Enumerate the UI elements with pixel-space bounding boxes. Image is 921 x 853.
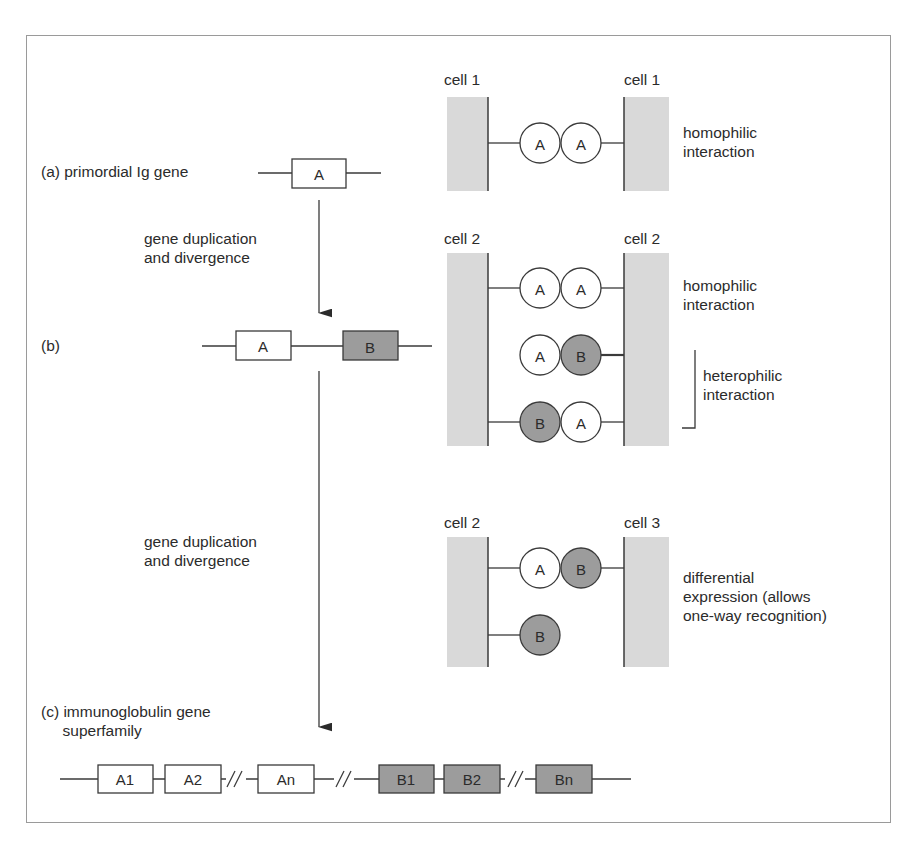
label-b: (b) bbox=[41, 336, 60, 355]
exon-b-label: B bbox=[365, 339, 375, 356]
domain-label: A bbox=[535, 136, 545, 153]
domain-label: B bbox=[535, 415, 545, 432]
domain-label: A bbox=[535, 348, 545, 365]
exon-bn-label: Bn bbox=[555, 771, 573, 788]
exon-b1-label: B1 bbox=[397, 771, 415, 788]
panel-1: AA bbox=[447, 97, 669, 191]
right-cell-block bbox=[624, 97, 669, 191]
label-duplication-1: gene duplication and divergence bbox=[144, 229, 257, 267]
domain-label: A bbox=[576, 136, 586, 153]
gene-b: A B bbox=[202, 331, 432, 360]
panel2-left-cell-label: cell 2 bbox=[444, 229, 480, 248]
left-cell-block bbox=[447, 253, 488, 446]
panel-2: AAABBA bbox=[447, 253, 669, 446]
left-cell-block bbox=[447, 537, 488, 667]
exon-b2-label: B2 bbox=[463, 771, 481, 788]
panel2-right-cell-label: cell 2 bbox=[624, 229, 660, 248]
interaction-row: AB bbox=[520, 335, 624, 375]
gene-c: A1 A2 An B1 B2 Bn bbox=[60, 765, 631, 793]
panel3-annotation-differential: differential expression (allows one-way … bbox=[683, 568, 827, 625]
panel-3: ABB bbox=[447, 537, 669, 667]
domain-label: A bbox=[535, 561, 545, 578]
panel1-right-cell-label: cell 1 bbox=[624, 70, 660, 89]
exon-a-label: A bbox=[314, 166, 324, 183]
interaction-row: BA bbox=[488, 402, 624, 442]
heterophilic-bracket bbox=[682, 350, 695, 428]
domain-label: A bbox=[576, 281, 586, 298]
interaction-row: B bbox=[488, 615, 560, 655]
break-mark-3 bbox=[505, 771, 525, 787]
panel1-left-cell-label: cell 1 bbox=[444, 70, 480, 89]
domain-label: A bbox=[576, 415, 586, 432]
panel1-annotation-homophilic: homophilic interaction bbox=[683, 123, 757, 161]
exon-a-label: A bbox=[258, 338, 268, 355]
gene-a: A bbox=[258, 159, 381, 188]
interaction-row: AA bbox=[488, 123, 624, 163]
exon-an-label: An bbox=[277, 771, 295, 788]
panel2-annotation-homophilic: homophilic interaction bbox=[683, 276, 757, 314]
cell-panels: AAAAABBAABB bbox=[447, 97, 669, 667]
domain-label: B bbox=[576, 348, 586, 365]
exon-a1-label: A1 bbox=[116, 771, 134, 788]
label-primordial-gene: (a) primordial Ig gene bbox=[41, 162, 188, 181]
domain-label: B bbox=[535, 628, 545, 645]
panel3-left-cell-label: cell 2 bbox=[444, 513, 480, 532]
interaction-row: AA bbox=[488, 268, 624, 308]
right-cell-block bbox=[624, 253, 669, 446]
panel3-right-cell-label: cell 3 bbox=[624, 513, 660, 532]
left-cell-block bbox=[447, 97, 488, 191]
label-superfamily: (c) immunoglobulin gene superfamily bbox=[41, 702, 211, 740]
break-mark-1 bbox=[226, 771, 246, 787]
exon-a2-label: A2 bbox=[184, 771, 202, 788]
break-mark-2 bbox=[334, 771, 354, 787]
domain-label: B bbox=[576, 561, 586, 578]
domain-label: A bbox=[535, 281, 545, 298]
right-cell-block bbox=[624, 537, 669, 667]
interaction-row: AB bbox=[488, 548, 624, 588]
label-duplication-2: gene duplication and divergence bbox=[144, 532, 257, 570]
panel2-annotation-heterophilic: heterophilic interaction bbox=[703, 366, 782, 404]
